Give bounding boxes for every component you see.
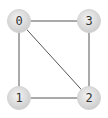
node-label: 3 xyxy=(85,14,92,28)
graph-diagram: 0 3 1 2 xyxy=(0,0,108,118)
node-0: 0 xyxy=(8,10,31,33)
edges xyxy=(19,21,89,98)
node-label: 0 xyxy=(15,14,22,28)
edge-0-2 xyxy=(19,21,89,98)
node-2: 2 xyxy=(78,87,101,110)
node-3: 3 xyxy=(78,10,101,33)
node-label: 1 xyxy=(15,91,22,105)
node-1: 1 xyxy=(8,87,31,110)
node-label: 2 xyxy=(85,91,92,105)
